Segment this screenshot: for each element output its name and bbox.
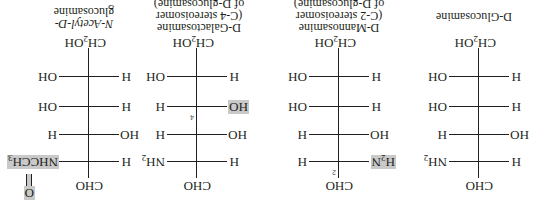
label-line: (C-2 stereoisomer bbox=[269, 10, 409, 22]
compound-d-mannosamine: CHO 2 H2N H HO H H OH H OH CH2OH D-Manno… bbox=[269, 0, 409, 210]
carbonyl-double-bond bbox=[26, 174, 32, 186]
label-line: D-Galactosamine bbox=[129, 22, 269, 34]
substituent-left: H bbox=[372, 100, 381, 114]
carbon-number: 2 bbox=[332, 169, 336, 176]
substituent-right: H bbox=[156, 128, 165, 142]
substituent-left: HO bbox=[370, 128, 389, 142]
substituent-left: H bbox=[122, 70, 131, 84]
compound-label: D-Mannosamine (C-2 stereoisomer of D-glu… bbox=[269, 0, 409, 34]
label-line: (C-4 stereoisomer bbox=[129, 10, 269, 22]
compound-d-glucosamine: CHO H NH2 HO H H OH H OH CH2OH D-Glucosa… bbox=[409, 0, 539, 210]
substituent-left-highlighted: H2N bbox=[371, 155, 396, 169]
compound-label: D-Glucosamine bbox=[409, 11, 539, 23]
fischer-backbone bbox=[478, 48, 479, 178]
substituent-right: H bbox=[438, 128, 447, 142]
carbonyl-oxygen: O bbox=[24, 186, 35, 200]
compound-n-acetyl-d-glucosamine: CHO H NHCCH3 O HO H H OH H OH CH2OH N-Ac… bbox=[0, 0, 129, 210]
compound-d-galactosamine: CHO H NH2 HO H 4 HO H H OH CH2OH D-Galac… bbox=[129, 0, 269, 210]
hydroxymethyl-group: CH2OH bbox=[455, 36, 496, 50]
hydroxymethyl-group: CH2OH bbox=[173, 36, 214, 50]
bond bbox=[59, 76, 119, 77]
fischer-backbone bbox=[196, 48, 197, 178]
label-line: of D-glucosamine) bbox=[269, 0, 409, 10]
bond bbox=[449, 76, 509, 77]
fischer-projections-figure: CHO H NH2 HO H H OH H OH CH2OH D-Glucosa… bbox=[0, 0, 547, 210]
fischer-backbone bbox=[88, 48, 89, 178]
substituent-left: H bbox=[230, 70, 239, 84]
bond bbox=[309, 134, 369, 135]
substituent-right: OH bbox=[288, 70, 307, 84]
label-line: D-Mannosamine bbox=[269, 22, 409, 34]
bond bbox=[167, 134, 227, 135]
substituent-right: NH2 bbox=[142, 155, 165, 169]
substituent-left: HO bbox=[228, 128, 247, 142]
bond bbox=[167, 76, 227, 77]
substituent-right: OH bbox=[38, 100, 57, 114]
substituent-right-highlighted: NHCCH3 bbox=[7, 155, 59, 169]
substituent-right: OH bbox=[428, 70, 447, 84]
substituent-right: OH bbox=[146, 70, 165, 84]
substituent-right: OH bbox=[38, 70, 57, 84]
substituent-left: H bbox=[122, 155, 131, 169]
substituent-left: H bbox=[122, 100, 131, 114]
substituent-left: H bbox=[512, 155, 521, 169]
bond bbox=[59, 134, 119, 135]
bond bbox=[309, 76, 369, 77]
substituent-right: OH bbox=[288, 100, 307, 114]
aldehyde-group: CHO bbox=[466, 179, 493, 193]
substituent-right: NH2 bbox=[424, 155, 447, 169]
substituent-right: OH bbox=[428, 100, 447, 114]
hydroxymethyl-group: CH2OH bbox=[315, 36, 356, 50]
label-line: of D-glucosamine) bbox=[129, 0, 269, 10]
bond bbox=[309, 106, 369, 107]
carbon-number: 4 bbox=[190, 114, 194, 121]
label-line: N-Acetyl-D- bbox=[29, 18, 139, 30]
label-line: glucosamine bbox=[29, 6, 139, 18]
substituent-left: H bbox=[512, 70, 521, 84]
bond bbox=[449, 161, 509, 162]
hydroxymethyl-group: CH2OH bbox=[65, 36, 106, 50]
aldehyde-group: CHO bbox=[326, 179, 353, 193]
substituent-right: H bbox=[298, 155, 307, 169]
substituent-left: H bbox=[372, 70, 381, 84]
aldehyde-group: CHO bbox=[76, 179, 103, 193]
bond bbox=[59, 161, 119, 162]
substituent-left-highlighted: HO bbox=[228, 100, 249, 114]
compound-label: D-Galactosamine (C-4 stereoisomer of D-g… bbox=[129, 0, 269, 34]
substituent-right: H bbox=[298, 128, 307, 142]
substituent-left: H bbox=[512, 100, 521, 114]
bond bbox=[449, 134, 509, 135]
substituent-right: H bbox=[156, 100, 165, 114]
substituent-left: HO bbox=[120, 128, 139, 142]
aldehyde-group: CHO bbox=[184, 179, 211, 193]
compound-label: N-Acetyl-D- glucosamine bbox=[29, 6, 139, 30]
bond bbox=[449, 106, 509, 107]
substituent-left: HO bbox=[510, 128, 529, 142]
label-line: D-Glucosamine bbox=[409, 11, 539, 23]
fischer-backbone bbox=[338, 48, 339, 178]
bond bbox=[167, 106, 227, 107]
bond bbox=[167, 161, 227, 162]
label-line-italic: N-Acetyl-D- bbox=[55, 17, 114, 31]
bond bbox=[309, 161, 369, 162]
substituent-right: H bbox=[48, 128, 57, 142]
substituent-left: H bbox=[230, 155, 239, 169]
bond bbox=[59, 106, 119, 107]
